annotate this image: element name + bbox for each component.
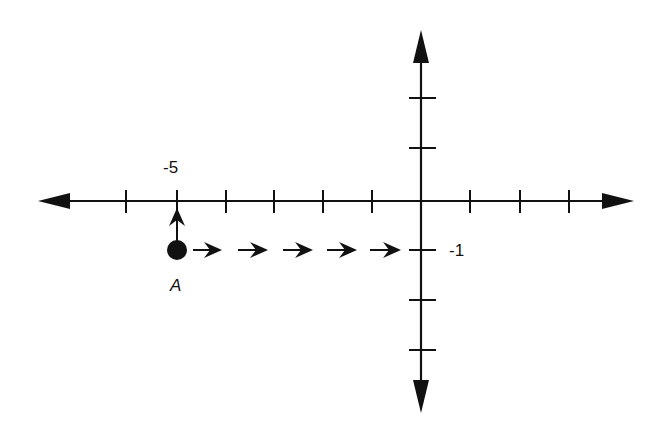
x-axis (38, 193, 634, 209)
coordinate-plane (0, 0, 668, 434)
up-arrow-icon (169, 208, 185, 244)
right-arrow-icon (327, 242, 357, 258)
x-axis-left-arrowhead-icon (38, 193, 70, 209)
right-arrow-icon (370, 242, 401, 258)
x-axis-right-arrowhead-icon (602, 193, 634, 209)
y-axis (413, 30, 429, 413)
point-a-label: A (170, 277, 181, 294)
right-arrow-icon (283, 242, 313, 258)
right-arrows (193, 242, 401, 258)
y-tick-label-neg1: -1 (449, 242, 464, 259)
y-axis-up-arrowhead-icon (413, 30, 429, 63)
right-arrow-icon (238, 242, 268, 258)
point-a-dot (167, 240, 187, 260)
y-axis-down-arrowhead-icon (413, 380, 429, 413)
y-axis-ticks (409, 98, 436, 350)
right-arrow-icon (193, 242, 222, 258)
x-tick-label-neg5: -5 (163, 159, 178, 176)
